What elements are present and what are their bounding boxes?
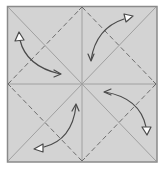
crease-lines xyxy=(8,7,156,161)
origami-diagram xyxy=(0,0,161,169)
